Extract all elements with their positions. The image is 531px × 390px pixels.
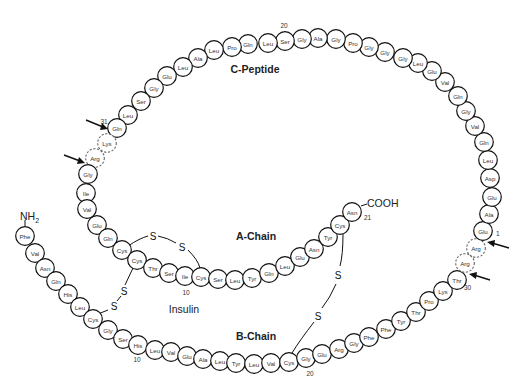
svg-text:Ala: Ala [194, 55, 204, 62]
residue-ser: Ser [209, 270, 228, 289]
svg-text:Leu: Leu [75, 304, 86, 311]
svg-text:Gln: Gln [453, 93, 463, 100]
residue-asn: Asn [343, 203, 362, 222]
residue-ala: Ala [194, 350, 213, 369]
svg-text:Thr: Thr [148, 265, 157, 272]
svg-text:Tyr: Tyr [324, 234, 333, 241]
svg-text:Ile: Ile [83, 190, 90, 197]
svg-text:Tyr: Tyr [397, 318, 406, 325]
disulfide-bond-a20-b19 [340, 234, 343, 266]
c-terminus-label: COOH [367, 197, 399, 209]
svg-text:Ser: Ser [164, 270, 174, 277]
svg-text:Ala: Ala [199, 356, 209, 363]
svg-text:Ala: Ala [485, 211, 495, 218]
c-peptide: GluAlaGluAspLeuGlnValGlyGlnValGluLeuGlyG… [108, 29, 502, 241]
svg-text:Asn: Asn [40, 265, 51, 272]
svg-text:Gly: Gly [461, 108, 471, 115]
sulfur-atom: S [121, 286, 128, 297]
svg-text:Gly: Gly [149, 85, 159, 92]
svg-text:Gly: Gly [301, 355, 311, 362]
a-chain-label: A-Chain [236, 230, 276, 242]
svg-text:Gln: Gln [264, 270, 274, 277]
residue-pro: Pro [223, 38, 242, 57]
arrow-icon [487, 240, 509, 248]
svg-text:Gly: Gly [380, 49, 390, 56]
svg-text:Tyr: Tyr [232, 360, 241, 367]
insulin-structure-diagram: S S S S S S NH2 COOH PheValAsnGlnHisLeuC… [0, 0, 531, 390]
residue-gln: Gln [449, 87, 468, 106]
residue-gly: Gly [394, 49, 413, 68]
svg-text:Ser: Ser [118, 336, 128, 343]
svg-text:Arg: Arg [90, 155, 100, 162]
svg-text:Gly: Gly [398, 55, 408, 62]
sulfur-atom: S [150, 231, 157, 242]
svg-text:Val: Val [31, 250, 39, 257]
svg-text:His: His [134, 342, 143, 349]
svg-text:Asn: Asn [347, 209, 358, 216]
svg-text:Ile: Ile [182, 273, 189, 280]
svg-text:Asp: Asp [485, 175, 496, 182]
svg-text:His: His [64, 291, 73, 298]
svg-text:Glu: Glu [182, 353, 192, 360]
svg-text:Glu: Glu [478, 228, 488, 235]
residue-glu: Glu [178, 347, 197, 366]
svg-text:Gln: Gln [103, 235, 113, 242]
arrow-icon [469, 272, 490, 280]
residue-gly: Gly [327, 30, 346, 49]
svg-text:Phe: Phe [363, 334, 375, 341]
svg-text:Gly: Gly [364, 44, 374, 51]
position-number-a21: 21 [364, 214, 372, 221]
svg-text:Glu: Glu [487, 194, 497, 201]
svg-text:Ser: Ser [136, 98, 146, 105]
svg-text:Glu: Glu [427, 68, 437, 75]
residue-arg: Arg [467, 239, 486, 258]
svg-text:Gly: Gly [349, 340, 359, 347]
residue-glu: Glu [474, 222, 493, 241]
svg-text:Cys: Cys [335, 222, 346, 229]
svg-text:Leu: Leu [413, 60, 424, 67]
svg-text:Glu: Glu [317, 351, 327, 358]
svg-text:Glu: Glu [295, 254, 305, 261]
position-number-b20: 20 [306, 370, 314, 377]
residue-ser: Ser [132, 92, 151, 111]
residue-asp: Asp [481, 169, 500, 188]
svg-text:Leu: Leu [123, 112, 134, 119]
residue-glu: Glu [313, 345, 332, 364]
b-c-cleavage-site: ArgArg [456, 239, 486, 273]
svg-text:Gln: Gln [112, 125, 122, 132]
svg-text:Cys: Cys [132, 257, 143, 264]
sulfur-atom: S [111, 301, 118, 312]
residue-gln: Gln [239, 35, 258, 54]
residue-phe: Phe [360, 328, 379, 347]
svg-text:Thr: Thr [411, 309, 420, 316]
svg-text:Pro: Pro [227, 44, 237, 51]
svg-text:Phe: Phe [19, 233, 31, 240]
svg-text:Leu: Leu [178, 64, 189, 71]
svg-text:Leu: Leu [215, 358, 226, 365]
svg-text:Val: Val [167, 349, 175, 356]
svg-text:Cys: Cys [88, 316, 99, 323]
residue-his: His [129, 336, 148, 355]
svg-text:Cys: Cys [117, 247, 128, 254]
svg-text:Leu: Leu [230, 277, 241, 284]
svg-text:Leu: Leu [249, 361, 260, 368]
residue-val: Val [262, 354, 281, 373]
position-number-b10: 10 [133, 356, 141, 363]
svg-text:Lys: Lys [102, 140, 111, 147]
svg-text:Leu: Leu [150, 347, 161, 354]
position-number-c20: 20 [280, 22, 288, 29]
residue-tyr: Tyr [243, 269, 262, 288]
svg-text:Gly: Gly [297, 36, 307, 43]
svg-text:Glu: Glu [92, 222, 102, 229]
residue-leu: Leu [245, 355, 264, 374]
svg-text:Gly: Gly [331, 36, 341, 43]
svg-text:Asn: Asn [309, 246, 320, 253]
svg-text:Gln: Gln [243, 41, 253, 48]
residue-leu: Leu [479, 151, 498, 170]
residue-ser: Ser [160, 264, 179, 283]
svg-text:Tyr: Tyr [248, 275, 257, 282]
residue-glu: Glu [483, 188, 502, 207]
svg-text:Gln: Gln [51, 278, 61, 285]
residue-phe: Phe [16, 227, 35, 246]
b-chain: PheValAsnGlnHisLeuCysGlySerHisLeuValGluA… [16, 227, 467, 374]
